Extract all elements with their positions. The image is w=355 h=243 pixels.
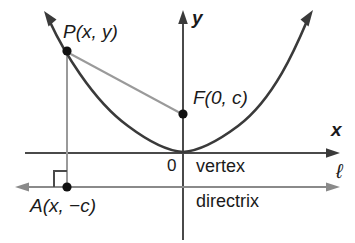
- y-axis-label: y: [192, 8, 203, 27]
- point-A-dot: [62, 182, 71, 191]
- directrix-right-arrowhead: [326, 182, 340, 191]
- parabola-diagram: P(x, y) F(0, c) A(x, −c) x y ℓ 0 vertex …: [0, 0, 355, 243]
- directrix-left-arrowhead: [15, 182, 29, 191]
- point-P-label: P(x, y): [63, 22, 118, 41]
- parabola-right-arrowhead: [301, 10, 314, 27]
- point-P-dot: [62, 46, 71, 55]
- segment-PF: [67, 52, 182, 114]
- vertex-label: vertex: [196, 157, 245, 175]
- y-axis: [178, 10, 188, 240]
- x-axis-arrowhead: [326, 148, 340, 158]
- directrix-label: directrix: [196, 192, 259, 210]
- origin-label: 0: [167, 157, 176, 174]
- point-F-label: F(0, c): [193, 88, 248, 107]
- x-axis-label: x: [331, 120, 342, 139]
- y-axis-arrowhead: [178, 10, 188, 24]
- point-F-dot: [178, 109, 187, 118]
- point-A-label: A(x, −c): [30, 196, 96, 215]
- directrix-line-label: ℓ: [336, 161, 342, 181]
- parabola-left-arrowhead: [44, 11, 57, 27]
